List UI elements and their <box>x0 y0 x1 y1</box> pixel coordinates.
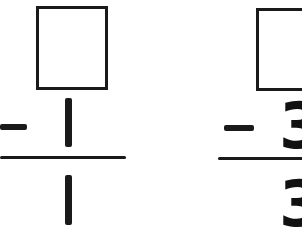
equals-line-2 <box>218 157 302 160</box>
minus-sign-2 <box>224 125 254 131</box>
minus-sign-1 <box>0 124 27 130</box>
equals-line-1 <box>0 156 126 159</box>
digit-subtrahend-2: 3 <box>279 94 302 158</box>
answer-box-2[interactable] <box>256 8 302 91</box>
answer-box-1[interactable] <box>36 6 108 90</box>
digit-subtrahend-1 <box>65 98 72 147</box>
digit-result-2: 3 <box>279 172 302 227</box>
digit-result-1 <box>65 175 72 225</box>
